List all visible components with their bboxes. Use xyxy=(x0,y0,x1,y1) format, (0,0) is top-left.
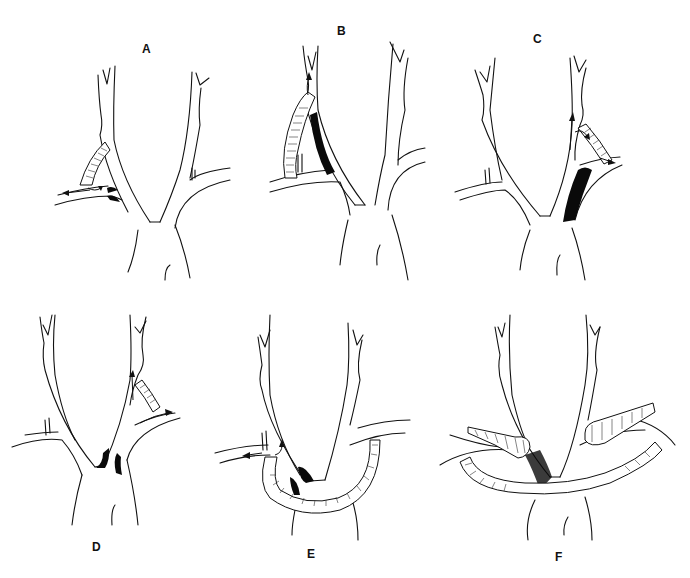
panel-d: D xyxy=(0,285,230,578)
vessel-diagram-d xyxy=(0,285,230,578)
panel-a: A xyxy=(0,0,230,290)
vessel-diagram-f xyxy=(440,285,690,578)
vessel-diagram-b xyxy=(230,0,460,290)
panel-b: B xyxy=(230,0,460,290)
panel-c: C xyxy=(450,0,690,290)
panel-e: E xyxy=(210,285,450,578)
vessel-diagram-c xyxy=(450,0,690,290)
vessel-diagram-a xyxy=(0,0,230,290)
panel-f: F xyxy=(440,285,690,578)
vessel-diagram-e xyxy=(210,285,450,578)
